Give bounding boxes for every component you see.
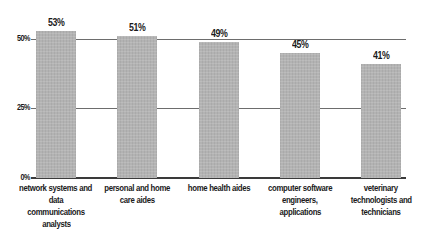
y-tick-label-0: 0% (6, 172, 30, 182)
y-tick-label-50: 50% (6, 33, 30, 43)
y-tick-label-25: 25% (6, 102, 30, 112)
bar-chart: 50% 25% 0% 53%network systems anddata co… (0, 0, 423, 233)
gridline-50 (31, 39, 406, 40)
category-label: personal and homecare aides (92, 182, 182, 206)
bar-2 (199, 42, 239, 178)
bar-value-label: 41% (351, 49, 411, 61)
bar-3 (280, 53, 320, 178)
category-label: network systems anddata communicationsan… (11, 182, 101, 230)
bar-1 (117, 36, 157, 178)
bar-4 (361, 64, 401, 178)
bar-0 (36, 31, 76, 178)
category-label: home health aides (174, 182, 264, 194)
bar-value-label: 53% (26, 16, 86, 28)
bar-value-label: 49% (189, 27, 249, 39)
category-label: computer softwareengineers,applications (255, 182, 345, 218)
bar-value-label: 51% (107, 21, 167, 33)
bar-value-label: 45% (270, 38, 330, 50)
category-label: veterinarytechnologists andtechnicians (336, 182, 423, 218)
